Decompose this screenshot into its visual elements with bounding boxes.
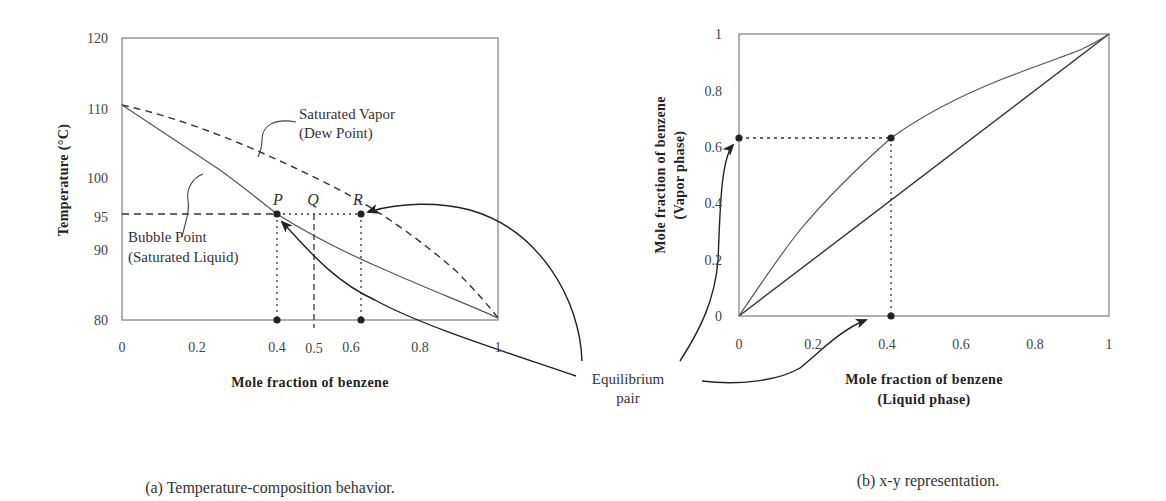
bubble-annotation-1: Bubble Point: [128, 229, 208, 245]
ytick-110: 110: [88, 102, 108, 117]
point-xy: [887, 134, 894, 141]
ytick-100: 100: [87, 171, 108, 186]
ytick-120: 120: [87, 31, 108, 46]
chart-a-frame: [122, 38, 498, 320]
equilibrium-pair-annotation: Equilibrium pair: [282, 145, 866, 406]
ytick-b-0.8: 0.8: [705, 84, 723, 99]
label-r: R: [352, 191, 363, 208]
xtick-0.2: 0.2: [188, 340, 206, 355]
chart-a: 120 110 100 95 90 80 0 0.2 0.4 0.5 0.6 0…: [56, 31, 502, 497]
label-q: Q: [307, 191, 319, 208]
xtick-b-1: 1: [1106, 337, 1113, 352]
xtick-b-0: 0: [736, 337, 743, 352]
xtick-0.5: 0.5: [305, 341, 323, 356]
arrow-to-x: [702, 320, 866, 383]
xtick-0.8: 0.8: [411, 340, 429, 355]
point-x: [887, 312, 894, 319]
chart-b-y-axis-label-1: Mole fraction of benzene: [653, 96, 668, 254]
xtick-b-0.6: 0.6: [952, 337, 970, 352]
point-p: [273, 210, 280, 217]
bubble-leader: [182, 174, 203, 237]
caption-a: (a) Temperature-composition behavior.: [145, 479, 395, 497]
dew-annotation-1: Saturated Vapor: [299, 106, 395, 122]
ytick-b-0.2: 0.2: [705, 253, 723, 268]
dew-annotation-2: (Dew Point): [299, 125, 373, 142]
equilibrium-label-2: pair: [616, 390, 639, 406]
label-p: P: [272, 191, 283, 208]
chart-b-x-axis-label-1: Mole fraction of benzene: [845, 372, 1003, 387]
chart-b-y-ticks: 1 0.8 0.6 0.4 0.2 0: [705, 27, 723, 324]
caption-b: (b) x-y representation.: [857, 472, 1000, 490]
ytick-b-0.6: 0.6: [705, 140, 723, 155]
ytick-b-0: 0: [715, 309, 722, 324]
equilibrium-label-1: Equilibrium: [592, 371, 665, 387]
figure-canvas: 120 110 100 95 90 80 0 0.2 0.4 0.5 0.6 0…: [0, 0, 1166, 501]
chart-a-y-axis-label: Temperature (°C): [56, 124, 72, 237]
point-r-x: [357, 316, 364, 323]
chart-a-x-ticks: 0 0.2 0.4 0.5 0.6 0.8 1: [119, 340, 502, 356]
xtick-b-0.2: 0.2: [804, 337, 822, 352]
xtick-b-0.4: 0.4: [878, 337, 896, 352]
ytick-90: 90: [94, 243, 108, 258]
chart-a-y-ticks: 120 110 100 95 90 80: [87, 31, 108, 328]
y-equals-x-line: [739, 34, 1109, 316]
ytick-95: 95: [94, 210, 108, 225]
arrow-to-p: [282, 222, 576, 376]
chart-b-y-axis-label-2: (Vapor phase): [672, 131, 688, 220]
xtick-1: 1: [495, 340, 502, 355]
xtick-b-0.8: 0.8: [1026, 337, 1044, 352]
chart-b-x-axis-label-2: (Liquid phase): [877, 392, 970, 408]
point-y: [735, 134, 742, 141]
point-p-x: [273, 316, 280, 323]
chart-b-x-ticks: 0 0.2 0.4 0.6 0.8 1: [736, 337, 1113, 352]
ytick-b-0.4: 0.4: [705, 196, 723, 211]
bubble-annotation-2: (Saturated Liquid): [128, 249, 238, 266]
xtick-0: 0: [119, 340, 126, 355]
chart-a-x-axis-label: Mole fraction of benzene: [231, 375, 389, 390]
xtick-0.6: 0.6: [342, 340, 360, 355]
chart-b: 1 0.8 0.6 0.4 0.2 0 0 0.2 0.4 0.6 0.8 1 …: [653, 27, 1113, 490]
dew-leader: [258, 121, 296, 157]
ytick-80: 80: [94, 313, 108, 328]
ytick-b-1: 1: [715, 27, 722, 42]
point-r: [357, 210, 364, 217]
xtick-0.4: 0.4: [268, 340, 286, 355]
